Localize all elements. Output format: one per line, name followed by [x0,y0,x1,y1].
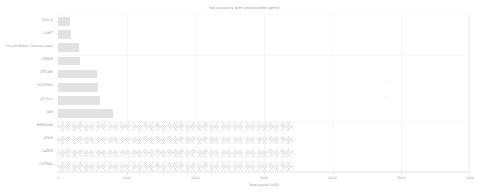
x-axis-tick-label: 3000 [260,176,268,180]
bar-row[interactable] [58,55,470,68]
bar[interactable] [58,162,293,171]
y-axis-tick-mark [56,21,59,22]
y-axis-tick-label: VAR [46,111,53,115]
x-axis-tick-label: 2000 [191,176,199,180]
bar-row[interactable] [58,147,470,160]
y-axis-tick-label: LAZER [42,150,53,154]
bar[interactable] [58,43,79,52]
bar-chart: Top accounts with unallocated spend 1.5 … [0,0,488,192]
bar[interactable] [58,83,98,92]
chart-title: Top accounts with unallocated spend [0,6,488,10]
y-axis-tick-mark [56,139,59,140]
y-axis-tick-mark [56,126,59,127]
x-axis-tick-label: 1000 [122,176,130,180]
y-axis-tick-label: J.E.P.inc [41,98,54,102]
bar[interactable] [58,57,80,66]
x-axis-tick-mark [470,172,471,175]
bar[interactable] [58,122,293,131]
bar[interactable] [58,30,71,39]
bar[interactable] [58,70,97,79]
bar-row[interactable] [58,120,470,133]
bar[interactable] [58,136,293,145]
x-axis-tick-label: 5000 [397,176,405,180]
y-axis-tick-mark [56,47,59,48]
y-axis-tick-mark [56,86,59,87]
x-axis-label: Total spend (USD) [58,183,470,187]
bar-row[interactable] [58,41,470,54]
y-axis-tick-label: CLINIT [42,32,53,36]
bar[interactable] [58,149,293,158]
bar[interactable] [58,17,70,26]
bar[interactable] [58,96,100,105]
x-axis-tick-mark [58,172,59,175]
bar-row[interactable] [58,134,470,147]
y-axis-tick-label: CLYTRAL [39,163,53,167]
y-axis-tick-label: HOSTING [38,84,53,88]
y-axis-tick-mark [56,113,59,114]
x-axis-tick-mark [264,172,265,175]
y-axis-tick-label: JETLINK [40,71,53,75]
plot-area: 1.5 0. [58,14,470,172]
x-axis-tick-label: 4000 [328,176,336,180]
y-axis-tick-label: MERIDIAN [37,124,53,128]
y-axis-tick-label: ROLLS [42,19,53,23]
bar-row[interactable] [58,15,470,28]
bar-row[interactable] [58,94,470,107]
y-axis-tick-mark [56,73,59,74]
y-axis-tick-label: DENIM [42,58,53,62]
bar-row[interactable] [58,28,470,41]
bar-row[interactable] [58,68,470,81]
x-axis-tick-mark [127,172,128,175]
y-axis-tick-mark [56,34,59,35]
x-axis-tick-label: 0 [57,176,59,180]
bar[interactable] [58,109,113,118]
x-axis-tick-mark [333,172,334,175]
bar-row[interactable] [58,107,470,120]
y-axis-tick-label: LEXIS [44,137,53,141]
y-axis-tick-label: Circuits/Robot Camera Lease [5,45,53,49]
y-axis-tick-mark [56,100,59,101]
bar-row[interactable] [58,160,470,173]
x-axis-tick-mark [195,172,196,175]
y-axis-tick-mark [56,152,59,153]
bar-row[interactable] [58,81,470,94]
x-axis-tick-label: 6000 [466,176,474,180]
x-axis-tick-mark [401,172,402,175]
y-axis-tick-mark [56,165,59,166]
y-axis-tick-mark [56,60,59,61]
